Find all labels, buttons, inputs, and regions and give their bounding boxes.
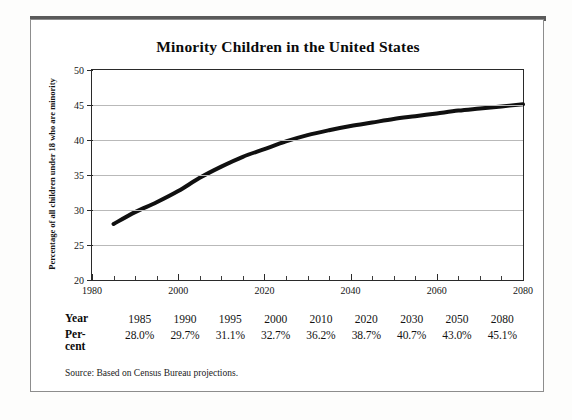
row-header-percent: Per-cent [65,329,117,352]
x-axis-minor-tick [372,276,373,280]
source-note: Source: Based on Census Bureau projectio… [65,368,238,378]
x-axis-tick [178,274,179,280]
x-axis-minor-tick [480,276,481,280]
table-cell-percent: 45.1% [480,329,525,341]
x-axis-minor-tick [458,276,459,280]
x-axis-tick-label: 2020 [254,285,274,296]
x-axis-tick-label: 2060 [427,285,447,296]
row-header-percent-line2: cent [65,340,85,352]
x-axis-minor-tick [135,276,136,280]
x-axis-minor-tick [221,276,222,280]
x-axis-tick-label: 1980 [82,285,102,296]
x-axis-tick-label: 2000 [168,285,188,296]
x-axis-tick-label: 2040 [341,285,361,296]
y-axis-tick-label: 40 [74,135,84,146]
x-axis-tick [351,274,352,280]
y-axis-tick-label: 30 [74,205,84,216]
x-axis-minor-tick [157,276,158,280]
table-cell-percent: 29.7% [162,329,207,341]
y-axis-tick-label: 35 [74,170,84,181]
x-axis-minor-tick [329,276,330,280]
table-cell-percent: 32.7% [253,329,298,341]
x-axis-tick [437,274,438,280]
series-line [114,104,523,224]
chart-title: Minority Children in the United States [31,38,545,56]
page-root: Minority Children in the United States P… [0,0,572,420]
y-axis-tick-label: 50 [74,65,84,76]
x-axis-minor-tick [200,276,201,280]
y-axis-tick [87,105,93,106]
y-gridline [92,245,523,246]
table-cell-percent: 31.1% [208,329,253,341]
x-axis-tick-label: 2080 [513,285,533,296]
x-axis-minor-tick [286,276,287,280]
y-axis-tick [87,280,93,281]
y-axis-tick-label: 20 [74,275,84,286]
y-axis-tick [87,245,93,246]
table-cell-percent: 43.0% [434,329,479,341]
y-axis-tick [87,140,93,141]
table-cell-percent: 28.0% [117,329,162,341]
table-cell-percent: 40.7% [389,329,434,341]
table-cell-year: 2050 [434,313,479,325]
y-axis-tick [87,210,93,211]
y-gridline [92,105,523,106]
y-gridline [92,175,523,176]
figure-card: Minority Children in the United States P… [30,19,544,392]
y-axis-tick-label: 25 [74,240,84,251]
table-cell-year: 2080 [480,313,525,325]
table-cell-year: 2020 [344,313,389,325]
y-axis-tick [87,70,93,71]
row-header-percent-line1: Per- [65,328,86,340]
table-cell-year: 2010 [298,313,343,325]
table-cell-year: 1995 [208,313,253,325]
table-cell-year: 2030 [389,313,434,325]
x-axis-minor-tick [308,276,309,280]
table-row-year: Year 19851990199520002010202020302050208… [65,313,525,325]
table-cell-percent: 36.2% [298,329,343,341]
plot-area: 20253035404550198020002020204020602080 [91,69,524,281]
table-cell-percent: 38.7% [344,329,389,341]
x-axis-minor-tick [501,276,502,280]
table-cell-year: 2000 [253,313,298,325]
x-axis-minor-tick [415,276,416,280]
x-axis-tick [92,274,93,280]
x-axis-minor-tick [243,276,244,280]
y-axis-title-text: Percentage of all children under 18 who … [47,78,57,270]
x-axis-tick [523,274,524,280]
table-row-percent: Per-cent 28.0%29.7%31.1%32.7%36.2%38.7%4… [65,329,525,352]
x-axis-minor-tick [114,276,115,280]
y-gridline [92,210,523,211]
y-axis-title: Percentage of all children under 18 who … [45,69,59,279]
y-axis-tick-label: 45 [74,100,84,111]
x-axis-tick [264,274,265,280]
y-gridline [92,140,523,141]
data-table: Year 19851990199520002010202020302050208… [65,313,525,352]
table-cell-year: 1985 [117,313,162,325]
x-axis-minor-tick [394,276,395,280]
table-cell-year: 1990 [162,313,207,325]
y-axis-tick [87,175,93,176]
row-header-year: Year [65,313,117,325]
